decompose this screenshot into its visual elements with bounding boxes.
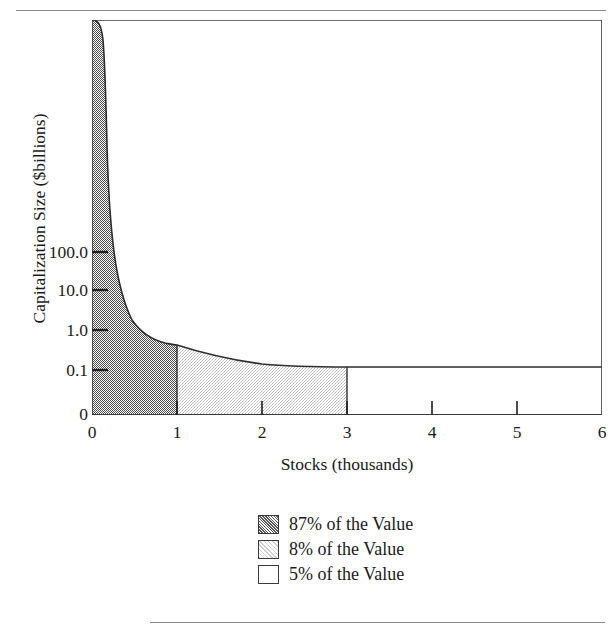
plot-area [92,20,602,415]
legend-item-8: 8% of the Value [258,537,508,562]
legend-label-8: 8% of the Value [289,539,404,560]
xtick-label-6: 6 [582,424,616,442]
chart-legend: 87% of the Value 8% of the Value 5% of t… [258,512,508,587]
ytick-label-100: 100.0 [2,244,88,262]
capitalization-curve [92,20,602,367]
clipped-header-text [130,0,270,3]
xtick-label-3: 3 [327,424,367,442]
xtick-label-0: 0 [72,424,112,442]
legend-item-5: 5% of the Value [258,562,508,587]
xtick-label-5: 5 [497,424,537,442]
ytick-label-1: 1.0 [2,322,88,340]
legend-swatch-dark-gray [258,515,279,534]
ytick-label-0-1: 0.1 [2,362,88,380]
xtick-label-2: 2 [242,424,282,442]
xtick-label-4: 4 [412,424,452,442]
legend-label-87: 87% of the Value [289,514,413,535]
legend-item-87: 87% of the Value [258,512,508,537]
ytick-label-0: 0 [2,406,88,424]
figure-container: Capitalization Size ($billions) [0,0,616,629]
top-page-rule [16,10,606,11]
legend-swatch-white [258,565,279,584]
x-axis-tick-labels: 0 1 2 3 4 5 6 [0,424,616,454]
chart-svg [92,20,602,415]
legend-swatch-light-gray [258,540,279,559]
xtick-label-1: 1 [157,424,197,442]
legend-label-5: 5% of the Value [289,564,404,585]
ytick-label-10: 10.0 [2,282,88,300]
x-axis-title: Stocks (thousands) [92,454,602,475]
region-white-5pct [347,367,602,415]
bottom-page-rule [150,622,605,623]
y-axis-tick-labels: 100.0 10.0 1.0 0.1 0 [0,0,88,629]
